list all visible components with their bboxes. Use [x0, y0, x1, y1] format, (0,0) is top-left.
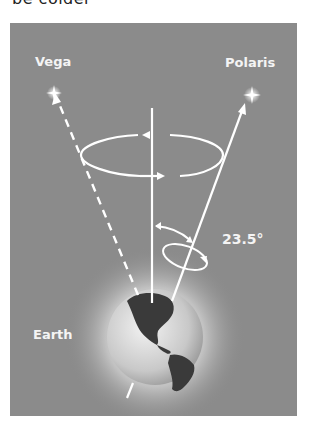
polaris-arrowhead [238, 103, 246, 115]
polaris-label: Polaris [225, 55, 275, 70]
angle-arc-arrow-left [155, 222, 161, 230]
vega-star-icon [46, 85, 62, 101]
polaris-star-icon [243, 86, 261, 104]
vega-dashed-axis [58, 101, 138, 295]
precession-arrow-left [142, 131, 150, 139]
caption-text-clipped: be colder [12, 0, 91, 8]
vega-label: Vega [35, 54, 71, 69]
angle-label: 23.5° [222, 231, 264, 247]
precession-arrow-right [157, 172, 165, 180]
diagram-graphics [10, 23, 297, 416]
angle-arc [156, 226, 190, 240]
earth-label: Earth [33, 327, 73, 342]
precession-diagram: Vega Polaris 23.5° Earth [10, 23, 297, 416]
